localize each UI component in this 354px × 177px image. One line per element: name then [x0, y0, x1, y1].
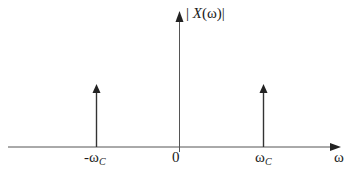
impulse-positive-omega-c: [260, 84, 268, 147]
y-axis: [176, 11, 184, 152]
tick-label-negative-omega-c: -ωC: [84, 150, 106, 165]
tick-subscript: C: [99, 156, 106, 167]
tick-main: 0: [172, 149, 180, 165]
tick-main: -ω: [84, 149, 99, 165]
y-axis-label: | X(ω)|: [186, 6, 225, 21]
function-arg: (ω): [202, 5, 222, 21]
impulse-negative-omega-c: [93, 84, 101, 147]
impulse-arrow-icon: [93, 84, 101, 93]
x-axis-label: ω: [334, 150, 344, 165]
function-name: X: [193, 5, 202, 21]
abs-close: |: [222, 5, 225, 21]
tick-main: ω: [255, 149, 265, 165]
tick-label-zero: 0: [172, 150, 180, 165]
tick-label-positive-omega-c: ωC: [255, 150, 272, 165]
tick-subscript: C: [265, 156, 272, 167]
y-axis-arrow-icon: [176, 11, 184, 22]
abs-open: |: [186, 5, 193, 21]
impulse-arrow-icon: [260, 84, 268, 93]
